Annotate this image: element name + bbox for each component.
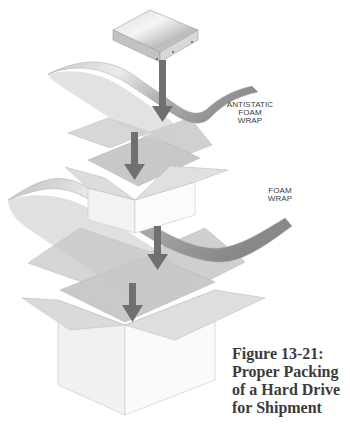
figure-caption: Figure 13-21: Proper Packing of a Hard D…: [232, 345, 350, 417]
hard-drive: [113, 10, 198, 62]
packing-diagram: ANTISTATIC FOAM WRAP FOAM WRAP Figure 13…: [0, 0, 350, 440]
antistatic-foam-wrap-label: ANTISTATIC FOAM WRAP: [222, 101, 278, 125]
foam-wrap-label: FOAM WRAP: [262, 187, 298, 203]
